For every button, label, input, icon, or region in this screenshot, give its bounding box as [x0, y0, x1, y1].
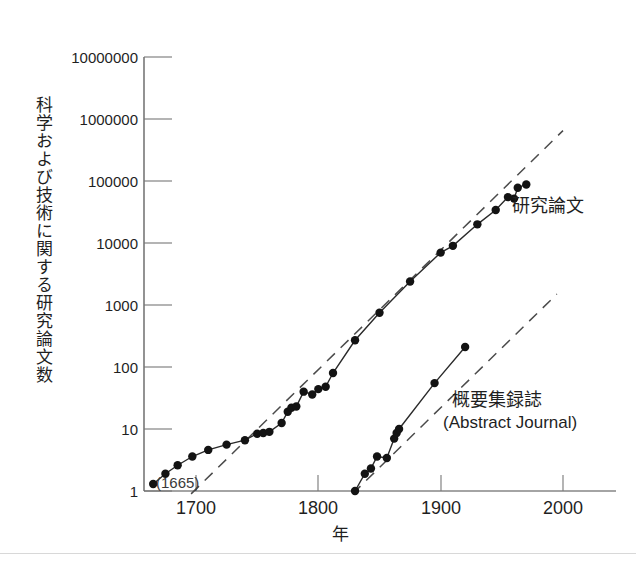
y-tick-label-10000: 10000 [96, 235, 138, 252]
data-point [522, 180, 530, 188]
data-point [430, 379, 438, 387]
data-point [314, 385, 322, 393]
data-point [492, 206, 500, 214]
data-point [436, 248, 444, 256]
x-tick-label-1700: 1700 [176, 498, 216, 518]
y-tick-label-100000: 100000 [88, 173, 138, 190]
data-point [204, 446, 212, 454]
data-point [222, 440, 230, 448]
data-point [473, 220, 481, 228]
y-tick-label-10000000: 10000000 [71, 49, 138, 66]
series-line-research-papers [153, 184, 526, 484]
data-point [373, 452, 381, 460]
data-point [329, 369, 337, 377]
y-axis-ticks [144, 57, 172, 491]
data-point [395, 425, 403, 433]
data-point [188, 452, 196, 460]
annotation-abstract-journal-jp: 概要集録誌 [452, 389, 542, 410]
data-point [299, 387, 307, 395]
x-axis-ticks [196, 475, 563, 491]
chart-figure: 科学および技術に関する研究論文数 10000000 1000000 100000… [0, 0, 636, 562]
x-tick-label-1800: 1800 [298, 498, 338, 518]
annotation-origin-year: (1665) [156, 474, 199, 491]
y-tick-label-10: 10 [121, 421, 138, 438]
data-point [351, 336, 359, 344]
footer-divider [0, 553, 636, 554]
y-tick-label-1000: 1000 [105, 297, 138, 314]
series-markers-research-papers [149, 180, 531, 488]
x-tick-label-1900: 1900 [421, 498, 461, 518]
data-point [173, 461, 181, 469]
data-point [241, 436, 249, 444]
annotation-abstract-journal-en: (Abstract Journal) [443, 413, 577, 432]
data-point [406, 277, 414, 285]
data-point [514, 183, 522, 191]
data-point [321, 383, 329, 391]
data-point [449, 242, 457, 250]
x-axis-title: 年 [332, 524, 349, 544]
y-tick-label-100: 100 [113, 359, 138, 376]
series-group [149, 180, 531, 495]
y-tick-label-1000000: 1000000 [80, 111, 138, 128]
annotation-research-papers: 研究論文 [512, 195, 584, 216]
data-point [461, 343, 469, 351]
data-point [383, 454, 391, 462]
data-point [292, 402, 300, 410]
data-point [375, 309, 383, 317]
y-tick-label-1: 1 [130, 483, 138, 500]
data-point [277, 419, 285, 427]
chart-plot-area: 10000000 1000000 100000 10000 1000 100 1… [0, 0, 636, 562]
data-point [367, 464, 375, 472]
data-point [265, 428, 273, 436]
data-point [351, 487, 359, 495]
x-tick-label-2000: 2000 [543, 498, 583, 518]
